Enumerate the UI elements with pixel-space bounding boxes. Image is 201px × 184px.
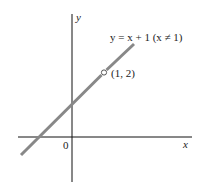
hole-point-label: (1, 2) [111,68,135,79]
x-axis-label: x [183,139,188,150]
function-line [21,75,102,155]
y-axis-label: y [76,12,81,23]
origin-label: 0 [63,140,69,151]
open-point-hole [101,70,106,75]
graph-canvas [0,0,201,184]
equation-label: y = x + 1 (x ≠ 1) [110,32,183,43]
